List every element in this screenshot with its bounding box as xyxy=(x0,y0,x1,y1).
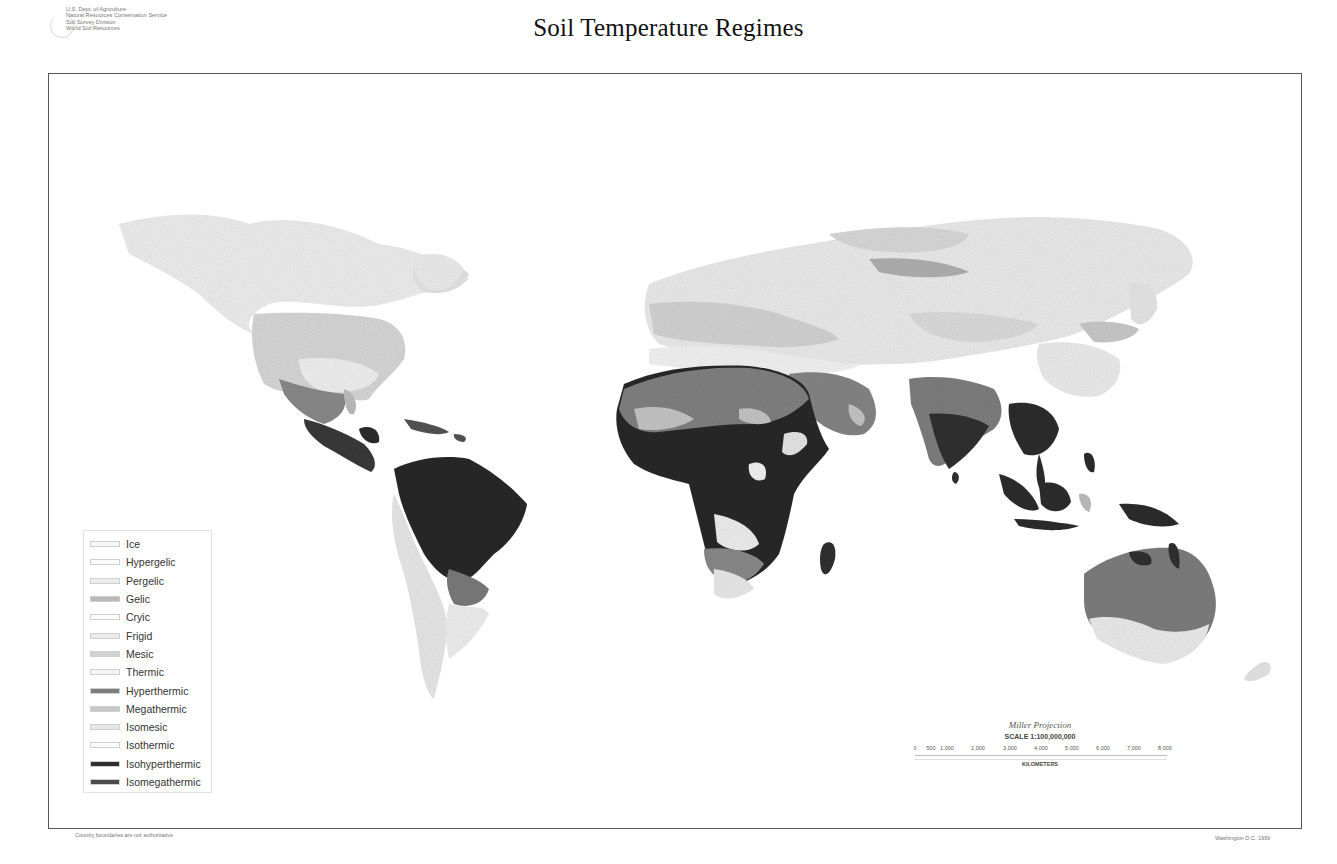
legend-label: Gelic xyxy=(126,593,150,605)
legend-label: Mesic xyxy=(126,648,153,660)
legend-swatch xyxy=(90,614,120,620)
legend-item: Thermic xyxy=(90,663,211,681)
legend-label: Cryic xyxy=(126,611,150,623)
legend-item: Isohyperthermic xyxy=(90,755,211,773)
scale-ticks: 0 500 1,000 2,000 3,000 4,000 5,000 6,00… xyxy=(905,745,1175,755)
legend-swatch xyxy=(90,578,120,584)
boundaries-disclaimer: Country boundaries are not authoritative xyxy=(75,832,173,838)
region-south-america xyxy=(392,457,527,699)
legend-swatch xyxy=(90,559,120,565)
legend-swatch xyxy=(90,706,120,712)
scale-tick: 500 xyxy=(926,745,935,751)
scale-tick: 1,000 xyxy=(940,745,954,751)
scale-bar xyxy=(915,755,1167,760)
legend-label: Hyperthermic xyxy=(126,685,188,697)
legend: Ice Hypergelic Pergelic Gelic Cryic Frig… xyxy=(83,530,212,793)
legend-item: Isomegathermic xyxy=(90,773,211,791)
legend-label: Thermic xyxy=(126,666,164,678)
legend-item: Cryic xyxy=(90,608,211,626)
legend-label: Frigid xyxy=(126,630,152,642)
legend-item: Frigid xyxy=(90,626,211,644)
legend-swatch xyxy=(90,779,120,785)
region-maritime-se-asia xyxy=(999,453,1179,530)
scale-block: Miller Projection SCALE 1:100,000,000 0 … xyxy=(905,720,1175,767)
region-australia xyxy=(1084,543,1271,681)
legend-item: Isothermic xyxy=(90,736,211,754)
legend-swatch xyxy=(90,651,120,657)
scale-ratio: SCALE 1:100,000,000 xyxy=(905,733,1175,740)
legend-swatch xyxy=(90,742,120,748)
legend-swatch xyxy=(90,596,120,602)
world-map xyxy=(49,74,1302,829)
legend-swatch xyxy=(90,761,120,767)
scale-tick: 6,000 xyxy=(1096,745,1110,751)
legend-swatch xyxy=(90,688,120,694)
scale-unit: KILOMETERS xyxy=(905,761,1175,767)
legend-item: Hyperthermic xyxy=(90,681,211,699)
legend-item: Pergelic xyxy=(90,572,211,590)
scale-tick: 2,000 xyxy=(971,745,985,751)
map-title: Soil Temperature Regimes xyxy=(0,14,1337,42)
legend-item: Mesic xyxy=(90,645,211,663)
scale-tick: 5,000 xyxy=(1065,745,1079,751)
legend-label: Isothermic xyxy=(126,739,174,751)
projection-label: Miller Projection xyxy=(905,720,1175,730)
publication-place-date: Washington D.C. 1999 xyxy=(1215,835,1270,841)
legend-swatch xyxy=(90,541,120,547)
legend-label: Pergelic xyxy=(126,575,164,587)
legend-label: Ice xyxy=(126,538,140,550)
scale-tick: 0 xyxy=(913,745,916,751)
legend-label: Isomesic xyxy=(126,721,167,733)
scale-tick: 8,000 xyxy=(1158,745,1172,751)
legend-label: Megathermic xyxy=(126,703,187,715)
scale-tick: 3,000 xyxy=(1003,745,1017,751)
legend-label: Isohyperthermic xyxy=(126,758,201,770)
region-north-america xyxy=(119,215,469,472)
legend-swatch xyxy=(90,724,120,730)
legend-label: Isomegathermic xyxy=(126,776,201,788)
region-africa xyxy=(616,366,835,599)
legend-item: Isomesic xyxy=(90,718,211,736)
scale-tick: 7,000 xyxy=(1127,745,1141,751)
legend-item: Hypergelic xyxy=(90,553,211,571)
legend-item: Ice xyxy=(90,535,211,553)
map-frame xyxy=(48,73,1302,829)
legend-swatch xyxy=(90,633,120,639)
legend-item: Gelic xyxy=(90,590,211,608)
legend-item: Megathermic xyxy=(90,700,211,718)
scale-tick: 4,000 xyxy=(1034,745,1048,751)
legend-label: Hypergelic xyxy=(126,556,176,568)
legend-swatch xyxy=(90,669,120,675)
